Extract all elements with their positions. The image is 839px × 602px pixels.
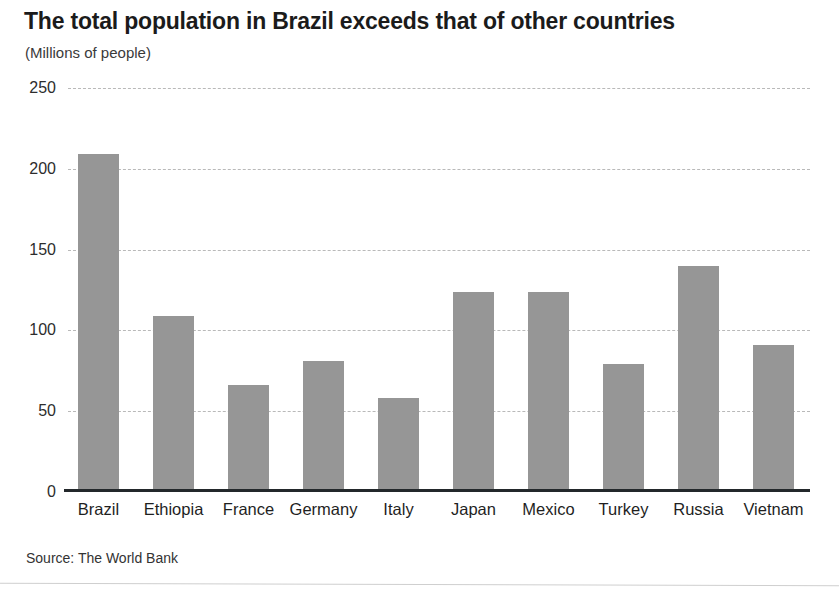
bar[interactable] [528, 292, 569, 492]
y-tick-label: 250 [12, 79, 56, 97]
source-note: Source: The World Bank [26, 550, 178, 566]
gridline [68, 169, 810, 170]
x-tick-label: Ethiopia [144, 500, 204, 519]
x-tick-label: Vietnam [743, 500, 803, 519]
bar[interactable] [678, 266, 719, 492]
y-tick-label: 200 [12, 160, 56, 178]
x-tick-label: France [223, 500, 274, 519]
x-tick-label: Turkey [599, 500, 649, 519]
bar[interactable] [78, 154, 119, 492]
bar[interactable] [228, 385, 269, 492]
y-axis: 050100150200250 [0, 88, 56, 492]
bar[interactable] [303, 361, 344, 492]
bar[interactable] [378, 398, 419, 492]
gridline [68, 88, 810, 89]
y-tick-label: 0 [12, 483, 56, 501]
x-tick-label: Mexico [522, 500, 574, 519]
x-axis-baseline [64, 489, 810, 492]
y-tick-label: 150 [12, 241, 56, 259]
bar[interactable] [453, 292, 494, 492]
x-tick-label: Russia [673, 500, 723, 519]
footer-divider [0, 583, 839, 587]
gridline [68, 250, 810, 251]
chart-page: The total population in Brazil exceeds t… [0, 0, 839, 602]
bar[interactable] [603, 364, 644, 492]
y-tick-label: 50 [12, 402, 56, 420]
bar[interactable] [153, 316, 194, 492]
x-tick-label: Brazil [78, 500, 119, 519]
x-tick-label: Germany [290, 500, 358, 519]
x-tick-label: Italy [383, 500, 413, 519]
y-tick-label: 100 [12, 321, 56, 339]
page-title: The total population in Brazil exceeds t… [24, 8, 814, 35]
bar[interactable] [753, 345, 794, 492]
chart-subtitle: (Millions of people) [25, 44, 151, 61]
x-tick-label: Japan [451, 500, 496, 519]
plot-area [68, 88, 810, 492]
